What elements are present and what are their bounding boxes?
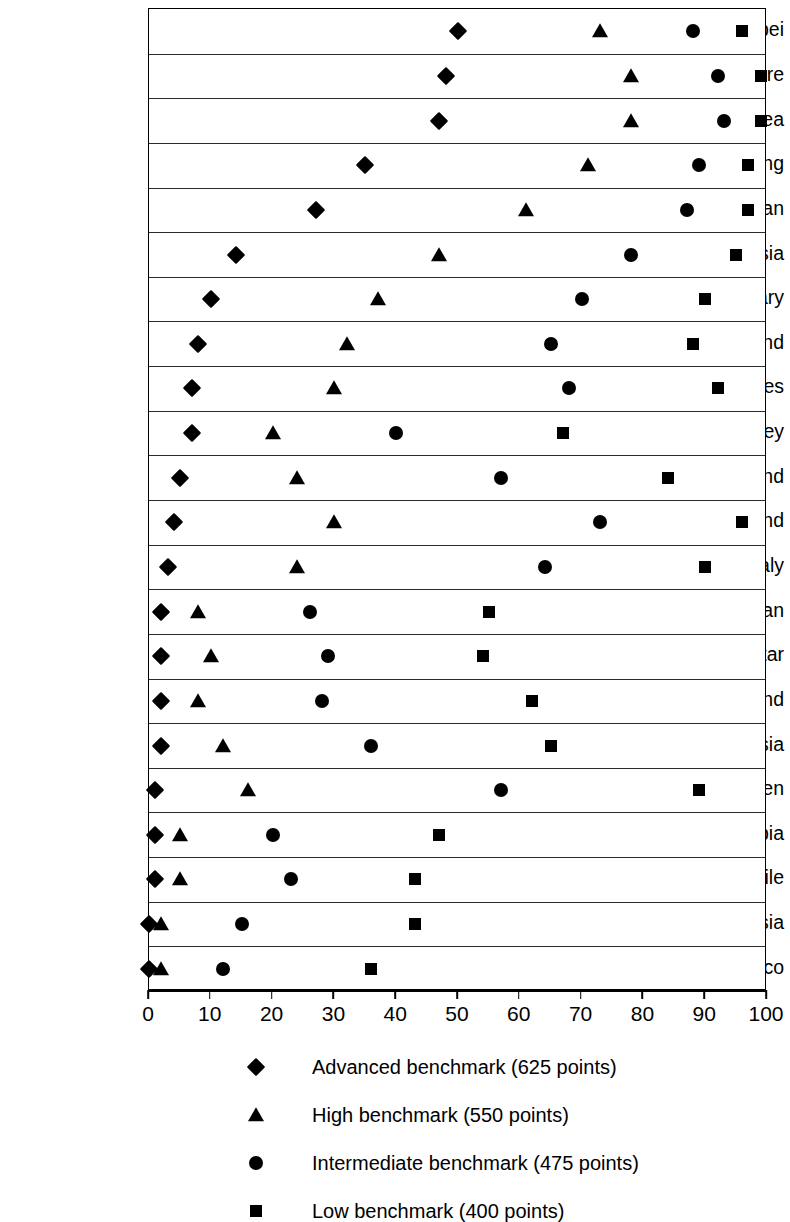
marker-triangle [203,648,219,662]
marker-circle [593,515,607,529]
marker-diamond [152,647,170,665]
row-separator [149,366,765,367]
row-separator [149,277,765,278]
marker-diamond [146,826,164,844]
marker-diamond [430,111,448,129]
x-tick [209,990,211,999]
x-tick-label: 0 [142,1003,154,1024]
x-tick-label: 70 [569,1003,592,1024]
marker-triangle [153,916,169,930]
x-tick [642,990,644,999]
marker-circle [315,694,329,708]
marker-circle [364,739,378,753]
marker-square [712,382,724,394]
marker-triangle [326,381,342,395]
marker-circle [624,248,638,262]
row-separator [149,232,765,233]
marker-diamond [146,870,164,888]
marker-square [483,606,495,618]
legend-label: Advanced benchmark (625 points) [312,1057,617,1077]
marker-square [477,650,489,662]
row-separator [149,143,765,144]
marker-triangle [339,336,355,350]
x-tick-label: 20 [260,1003,283,1024]
marker-circle [321,649,335,663]
row-separator [149,679,765,680]
marker-triangle [431,247,447,261]
legend-symbol-circle-icon [249,1156,263,1170]
x-tick-label: 10 [198,1003,221,1024]
marker-circle [494,783,508,797]
legend-label: High benchmark (550 points) [312,1105,569,1125]
row-separator [149,902,765,903]
marker-square [736,25,748,37]
legend-label: Intermediate benchmark (475 points) [312,1153,639,1173]
marker-square [545,740,557,752]
legend-item: Low benchmark (400 points) [236,1187,776,1222]
row-separator [149,455,765,456]
marker-triangle [592,23,608,37]
marker-square [409,873,421,885]
marker-triangle [240,782,256,796]
marker-circle [711,69,725,83]
row-separator [149,768,765,769]
row-separator [149,545,765,546]
x-tick [518,990,520,999]
marker-diamond [140,959,158,977]
row-separator [149,54,765,55]
marker-square [699,293,711,305]
chart-legend: Advanced benchmark (625 points)High benc… [236,1043,776,1222]
row-separator [149,188,765,189]
marker-circle [692,158,706,172]
marker-square [687,338,699,350]
x-tick [333,990,335,999]
row-separator [149,411,765,412]
x-tick [147,990,149,999]
benchmark-attainment-chart: Chinese TaipeiSingaporeSouth KoreaHong K… [0,0,790,1222]
row-separator [149,812,765,813]
marker-square [409,918,421,930]
marker-square [662,472,674,484]
x-tick-label: 80 [631,1003,654,1024]
marker-square [736,516,748,528]
marker-circle [303,605,317,619]
marker-circle [575,292,589,306]
row-separator [149,500,765,501]
marker-diamond [436,67,454,85]
marker-diamond [152,692,170,710]
marker-diamond [449,22,467,40]
row-separator [149,589,765,590]
marker-diamond [307,201,325,219]
x-tick [580,990,582,999]
row-separator [149,946,765,947]
marker-diamond [158,558,176,576]
marker-circle [266,828,280,842]
legend-symbol-triangle-icon [248,1107,264,1121]
marker-diamond [171,468,189,486]
marker-square [755,70,767,82]
marker-diamond [146,781,164,799]
legend-symbol-diamond-icon [247,1058,265,1076]
row-separator [149,98,765,99]
marker-diamond [152,602,170,620]
marker-square [699,561,711,573]
row-separator [149,634,765,635]
marker-square [433,829,445,841]
legend-symbol-square-icon [250,1205,262,1217]
marker-square [742,204,754,216]
marker-square [557,427,569,439]
marker-triangle [370,291,386,305]
x-tick [394,990,396,999]
legend-label: Low benchmark (400 points) [312,1201,564,1221]
marker-triangle [172,872,188,886]
marker-triangle [623,113,639,127]
marker-triangle [580,157,596,171]
marker-square [526,695,538,707]
marker-square [730,249,742,261]
marker-circle [680,203,694,217]
marker-diamond [183,424,201,442]
marker-triangle [153,961,169,975]
x-tick-label: 50 [445,1003,468,1024]
marker-square [742,159,754,171]
x-tick-label: 100 [748,1003,783,1024]
